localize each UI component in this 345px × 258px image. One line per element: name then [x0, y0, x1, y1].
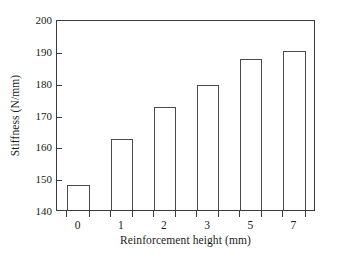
y-tick-label: 150 — [18, 174, 52, 185]
bar — [67, 185, 89, 210]
bar — [240, 59, 262, 210]
x-tick-label: 7 — [273, 217, 313, 233]
bar — [154, 107, 176, 210]
bar-chart-figure: Stiffness (N/mm) 140150160170180190200 0… — [0, 0, 345, 258]
plot-area — [56, 20, 315, 211]
y-tick-mark — [57, 148, 62, 149]
bar — [283, 51, 305, 210]
bar-series — [57, 21, 314, 210]
x-tick-label: 2 — [144, 217, 184, 233]
x-axis-title: Reinforcement height (mm) — [56, 234, 315, 246]
x-tick-label: 1 — [101, 217, 141, 233]
y-tick-mark — [57, 53, 62, 54]
y-tick-label: 180 — [18, 78, 52, 89]
y-tick-label: 190 — [18, 46, 52, 57]
x-axis-tick-labels: 012357 — [56, 217, 315, 233]
y-axis-tick-labels: 140150160170180190200 — [14, 20, 52, 211]
bar — [197, 85, 219, 210]
y-tick-mark — [57, 85, 62, 86]
y-tick-mark — [57, 180, 62, 181]
bar — [111, 139, 133, 210]
y-tick-label: 170 — [18, 110, 52, 121]
y-tick-label: 160 — [18, 142, 52, 153]
y-tick-label: 140 — [18, 206, 52, 217]
x-tick-label: 0 — [58, 217, 98, 233]
y-tick-label: 200 — [18, 15, 52, 26]
x-tick-label: 3 — [187, 217, 227, 233]
x-tick-label: 5 — [230, 217, 270, 233]
y-tick-mark — [57, 117, 62, 118]
